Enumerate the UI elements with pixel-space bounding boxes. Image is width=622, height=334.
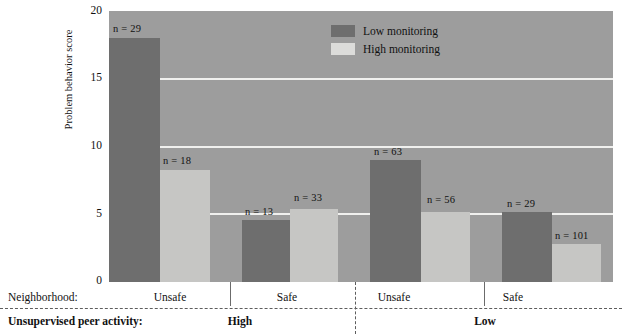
neighborhood-axis-row: Neighborhood: Unsafe Safe Unsafe Safe <box>0 288 622 308</box>
bar-low-unsafe-high-peer[interactable] <box>109 38 160 282</box>
y-tick-label-15: 15 <box>76 72 102 84</box>
neighborhood-divider-1 <box>230 282 231 306</box>
legend-swatch-high-icon <box>331 43 355 55</box>
bar-low-safe-low-peer[interactable] <box>502 212 552 282</box>
group-label-unsafe-low: Unsafe <box>344 291 444 303</box>
y-tick-label-10: 10 <box>76 140 102 152</box>
figure-root: 20 15 10 5 0 Problem behavior score Low … <box>0 0 622 334</box>
plot-area: Low monitoring High monitoring <box>109 11 613 282</box>
bar-high-safe-high-peer[interactable] <box>290 209 338 282</box>
bar-n-label-5: n = 63 <box>374 146 402 157</box>
group-label-unsafe-high: Unsafe <box>120 291 220 303</box>
bar-high-unsafe-high-peer[interactable] <box>160 170 210 282</box>
peer-activity-row-title: Unsupervised peer activity: <box>8 315 143 327</box>
legend-item-low-monitoring[interactable]: Low monitoring <box>331 22 521 40</box>
y-axis-title: Problem behavior score <box>63 0 74 160</box>
peer-activity-axis-row: Unsupervised peer activity: High Low <box>0 313 622 333</box>
legend: Low monitoring High monitoring <box>331 22 521 58</box>
bar-n-label-4: n = 33 <box>294 192 322 203</box>
neighborhood-row-title: Neighborhood: <box>8 291 78 303</box>
bar-n-label-3: n = 13 <box>245 206 273 217</box>
bar-n-label-2: n = 18 <box>163 155 191 166</box>
bar-n-label-8: n = 101 <box>555 230 589 241</box>
gridline-10 <box>109 146 613 148</box>
group-label-safe-high: Safe <box>237 291 337 303</box>
bar-n-label-1: n = 29 <box>113 23 141 34</box>
bar-low-safe-high-peer[interactable] <box>242 220 290 282</box>
legend-label-high: High monitoring <box>363 43 440 55</box>
y-tick-label-5: 5 <box>76 208 102 220</box>
gridline-15 <box>109 78 613 80</box>
peer-activity-label-low: Low <box>435 315 535 327</box>
bottom-axis-dashed-rule <box>0 308 622 309</box>
y-tick-label-20: 20 <box>76 5 102 17</box>
bar-n-label-6: n = 56 <box>427 194 455 205</box>
bar-low-unsafe-low-peer[interactable] <box>370 160 421 282</box>
legend-swatch-low-icon <box>331 25 355 37</box>
peer-activity-label-high: High <box>190 315 290 327</box>
y-tick-label-0: 0 <box>76 275 102 287</box>
neighborhood-divider-2 <box>484 282 485 306</box>
legend-label-low: Low monitoring <box>363 25 438 37</box>
legend-item-high-monitoring[interactable]: High monitoring <box>331 40 521 58</box>
bar-high-safe-low-peer[interactable] <box>552 244 601 282</box>
bar-n-label-7: n = 29 <box>507 198 535 209</box>
bar-high-unsafe-low-peer[interactable] <box>421 212 470 282</box>
group-label-safe-low: Safe <box>463 291 563 303</box>
